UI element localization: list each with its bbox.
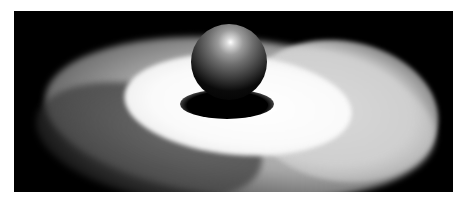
- render-frame: [14, 11, 453, 192]
- sphere: [191, 24, 267, 100]
